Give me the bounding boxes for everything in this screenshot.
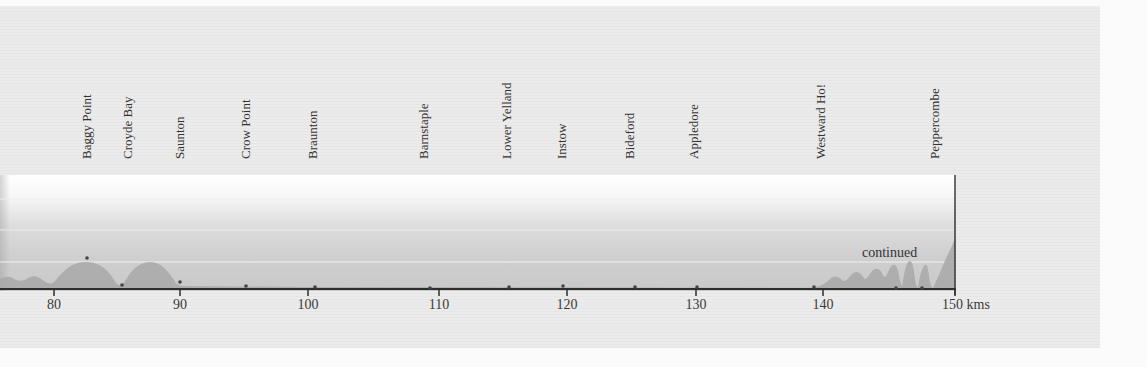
location-label-braunton: Braunton [305, 111, 321, 159]
marker-braunton [313, 285, 317, 289]
x-axis-ticks [54, 289, 955, 296]
location-label-peppercombe: Peppercombe [927, 88, 943, 159]
location-label-saunton: Saunton [172, 116, 188, 159]
marker-lower-yelland [507, 285, 511, 289]
location-label-lower-yelland: Lower Yelland [499, 82, 515, 159]
location-label-croyde-bay: Croyde Bay [120, 97, 136, 159]
marker-westward-ho [812, 285, 816, 289]
x-tick-label-120: 120 [557, 297, 578, 313]
x-tick-value-150: 150 [942, 297, 963, 312]
location-label-instow: Instow [554, 124, 570, 159]
x-axis-unit: kms [967, 297, 990, 312]
x-tick-label-90: 90 [173, 297, 187, 313]
x-tick-label-150: 150 kms [942, 297, 990, 313]
x-tick-label-100: 100 [298, 297, 319, 313]
marker-peppercombe-a [894, 286, 898, 290]
location-label-westward-ho: Westward Ho! [813, 84, 829, 159]
marker-saunton [178, 280, 182, 284]
x-tick-label-130: 130 [686, 297, 707, 313]
location-label-appledore: Appledore [686, 104, 702, 159]
location-label-crow-point: Crow Point [238, 99, 254, 159]
x-tick-label-110: 110 [429, 297, 449, 313]
marker-croyde-bay [120, 283, 124, 287]
location-label-barnstaple: Barnstaple [416, 103, 432, 159]
marker-instow [561, 284, 565, 288]
x-tick-label-140: 140 [813, 297, 834, 313]
continued-annotation: continued [862, 245, 917, 261]
location-label-bideford: Bideford [622, 113, 638, 159]
marker-crow-point [244, 284, 248, 288]
x-tick-label-80: 80 [47, 297, 61, 313]
marker-baggy-point [85, 256, 89, 260]
elevation-profile-area [0, 262, 955, 289]
gridlines [0, 199, 955, 262]
marker-peppercombe-b [920, 286, 924, 290]
location-markers [85, 256, 924, 290]
marker-barnstaple [428, 286, 432, 290]
marker-appledore [695, 285, 699, 289]
location-label-baggy-point: Baggy Point [79, 94, 95, 159]
marker-bideford [633, 285, 637, 289]
